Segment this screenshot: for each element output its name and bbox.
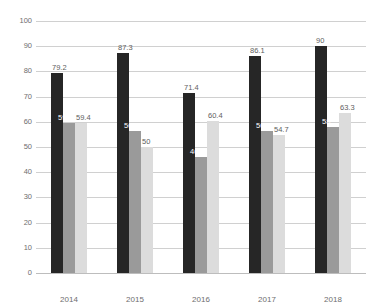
bar-label-2014-series-1: 79.2 (52, 63, 67, 72)
bar-2017-series-1[interactable] (249, 56, 261, 273)
bar-label-2014-series-2: 59.4 (58, 113, 73, 122)
bar-group-2018: 905863.3 (315, 21, 351, 273)
y-axis-tick-label: 60 (2, 118, 32, 126)
bar-label-2016-series-1: 71.4 (184, 83, 199, 92)
bar-2017-series-2[interactable] (261, 131, 273, 273)
bar-chart: 1009080706050403020100 79.259.459.487.35… (0, 0, 385, 308)
y-axis-tick-label: 0 (2, 269, 32, 277)
bar-label-2017-series-3: 54.7 (274, 125, 289, 134)
x-axis-tick-label-2014: 2014 (60, 295, 78, 304)
x-axis: 20142015201620172018 (36, 273, 366, 308)
bar-group-2015: 87.356.350 (117, 21, 153, 273)
bar-2015-series-1[interactable] (117, 53, 129, 273)
bar-2016-series-1[interactable] (183, 93, 195, 273)
x-axis-tick-label-2017: 2017 (258, 295, 276, 304)
bar-label-2018-series-3: 63.3 (340, 103, 355, 112)
bar-2016-series-2[interactable] (195, 157, 207, 273)
bar-label-2015-series-1: 87.3 (118, 43, 133, 52)
y-axis: 1009080706050403020100 (0, 21, 32, 273)
y-axis-tick-label: 90 (2, 42, 32, 50)
y-axis-tick-label: 20 (2, 219, 32, 227)
bar-label-2016-series-3: 60.4 (208, 111, 223, 120)
y-axis-tick-label: 100 (2, 17, 32, 25)
bar-2014-series-2[interactable] (63, 123, 75, 273)
bar-2017-series-3[interactable] (273, 135, 285, 273)
bar-label-2017-series-2: 56.5 (256, 121, 271, 130)
y-axis-tick-label: 80 (2, 67, 32, 75)
y-axis-tick-label: 30 (2, 193, 32, 201)
bar-2015-series-2[interactable] (129, 131, 141, 273)
bar-2018-series-3[interactable] (339, 113, 351, 273)
bar-2016-series-3[interactable] (207, 121, 219, 273)
bar-group-2017: 86.156.554.7 (249, 21, 285, 273)
bar-label-2015-series-2: 56.3 (124, 121, 139, 130)
bar-group-2016: 71.44660.4 (183, 21, 219, 273)
bar-2015-series-3[interactable] (141, 147, 153, 273)
bar-group-2014: 79.259.459.4 (51, 21, 87, 273)
bar-label-2016-series-2: 46 (190, 147, 198, 156)
plot-area: 79.259.459.487.356.35071.44660.486.156.5… (36, 21, 366, 273)
bar-2014-series-3[interactable] (75, 123, 87, 273)
bar-2018-series-1[interactable] (315, 46, 327, 273)
x-axis-tick-label-2015: 2015 (126, 295, 144, 304)
bar-label-2018-series-1: 90 (316, 36, 324, 45)
bar-label-2017-series-1: 86.1 (250, 46, 265, 55)
bar-label-2018-series-2: 58 (322, 117, 330, 126)
bar-2018-series-2[interactable] (327, 127, 339, 273)
x-axis-tick-label-2018: 2018 (324, 295, 342, 304)
y-axis-tick-label: 70 (2, 93, 32, 101)
x-axis-tick-label-2016: 2016 (192, 295, 210, 304)
bar-label-2014-series-3: 59.4 (76, 113, 91, 122)
bar-label-2015-series-3: 50 (142, 137, 150, 146)
y-axis-tick-label: 40 (2, 168, 32, 176)
y-axis-tick-label: 50 (2, 143, 32, 151)
bar-2014-series-1[interactable] (51, 73, 63, 273)
y-axis-tick-label: 10 (2, 244, 32, 252)
